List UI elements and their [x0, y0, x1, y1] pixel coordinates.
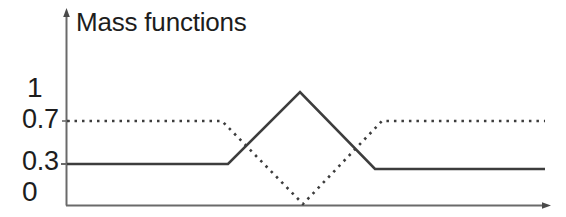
x-axis-arrow-icon [542, 202, 551, 208]
solid-mass-function-curve [67, 92, 545, 169]
chart-title: Mass functions [76, 9, 247, 35]
y-axis-tick-label-0: 0 [22, 178, 37, 206]
y-axis-tick-label-0-3: 0.3 [22, 148, 59, 175]
y-axis-tick-label-0-7: 0.7 [22, 106, 59, 133]
y-axis-arrow-icon [63, 8, 70, 17]
y-axis-tick-label-1: 1 [27, 74, 42, 102]
dotted-mass-function-curve [67, 121, 545, 204]
mass-functions-figure: Mass functions 1 0.7 0.3 0 [0, 0, 566, 217]
